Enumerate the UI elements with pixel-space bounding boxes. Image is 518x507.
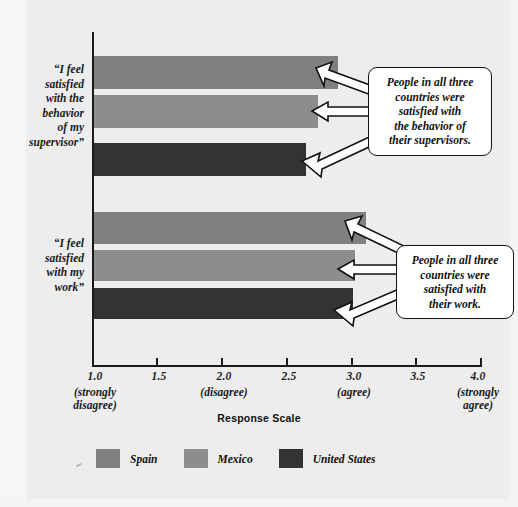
legend-item-spain: Spain: [96, 449, 158, 468]
x-tick-sublabel-7-line2: agree): [463, 399, 493, 411]
x-tick-sublabel-7-line1: (strongly: [457, 386, 499, 398]
bar-spain-supervisor: [94, 56, 338, 89]
category-label-supervisor-line4: behavior: [42, 107, 84, 119]
bar-united-states-supervisor: [94, 143, 306, 176]
chart-legend: Spain Mexico United States: [96, 449, 402, 468]
x-tick-7: [480, 358, 482, 367]
callout-work-line4: their work.: [429, 298, 481, 310]
x-tick-6: [415, 358, 417, 367]
callout-supervisor-line2: countries were: [395, 91, 464, 103]
legend-label-united-states: United States: [313, 453, 376, 465]
callout-supervisor-line4: the behavior of: [394, 120, 466, 132]
x-tick-label-4: 2.5: [282, 370, 297, 382]
callout-supervisor-line3: satisfied with: [399, 105, 461, 117]
bar-spain-work: [94, 212, 366, 244]
legend-item-united-states: United States: [279, 449, 376, 468]
category-label-supervisor-line2: satisfied: [45, 78, 84, 90]
x-tick-sublabel-3: (disagree): [200, 386, 247, 399]
callout-supervisor: People in all three countries were satis…: [368, 67, 492, 156]
legend-label-mexico: Mexico: [218, 453, 253, 465]
x-tick-1: [92, 358, 94, 367]
legend-swatch-united-states: [279, 449, 303, 468]
x-tick-5: [351, 358, 353, 367]
category-label-work-line4: work”: [55, 281, 84, 293]
x-tick-sublabel-5: (agree): [337, 386, 371, 399]
callout-work: People in all three countries were satis…: [396, 245, 514, 319]
x-tick-label-3: 2.0: [217, 370, 232, 382]
category-label-work-line1: “I feel: [54, 237, 84, 249]
category-label-supervisor-line5: of my: [57, 121, 84, 133]
page-bottom-edge: [0, 499, 518, 507]
category-label-work: “I feel satisfied with my work”: [0, 236, 84, 294]
category-label-supervisor-line1: “I feel: [54, 63, 84, 75]
legend-label-spain: Spain: [130, 453, 158, 465]
scan-artifact-mark: [76, 463, 82, 468]
x-tick-label-2: 1.5: [152, 370, 167, 382]
x-tick-label-6: 3.5: [411, 370, 426, 382]
x-tick-sublabel-1: (strongly disagree): [73, 386, 116, 412]
x-tick-3: [221, 358, 223, 367]
category-label-supervisor-line3: with the: [46, 92, 84, 104]
x-tick-sublabel-1-line1: (strongly: [74, 386, 116, 398]
legend-item-mexico: Mexico: [184, 449, 253, 468]
x-tick-sublabel-7: (strongly agree): [457, 386, 499, 412]
x-tick-label-7: 4.0: [471, 370, 486, 382]
category-label-supervisor-line6: supervisor”: [29, 136, 84, 148]
x-tick-2: [156, 358, 158, 367]
category-label-work-line2: satisfied: [45, 252, 84, 264]
chart-figure: 1.0 1.5 2.0 2.5 3.0 3.5 4.0 (strongly di…: [0, 0, 518, 507]
callout-work-line1: People in all three: [412, 254, 499, 266]
callout-work-line3: satisfied with: [424, 283, 486, 295]
callout-supervisor-line5: their supervisors.: [389, 134, 471, 146]
x-tick-label-1: 1.0: [88, 370, 103, 382]
category-label-supervisor: “I feel satisfied with the behavior of m…: [0, 62, 84, 149]
callout-supervisor-line1: People in all three: [387, 76, 474, 88]
bar-mexico-supervisor: [94, 95, 318, 128]
callout-work-line2: countries were: [420, 269, 489, 281]
bar-united-states-work: [94, 288, 353, 319]
bar-mexico-work: [94, 250, 355, 281]
legend-swatch-spain: [96, 449, 120, 468]
x-tick-4: [286, 358, 288, 367]
x-tick-label-5: 3.0: [347, 370, 362, 382]
category-label-work-line3: with my: [47, 266, 84, 278]
legend-swatch-mexico: [184, 449, 208, 468]
x-tick-sublabel-1-line2: disagree): [73, 399, 116, 411]
x-axis-title: Response Scale: [0, 412, 518, 424]
